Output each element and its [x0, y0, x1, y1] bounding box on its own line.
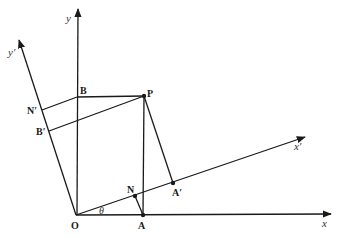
line-p-a-prime	[144, 96, 173, 183]
x-axis-label: x	[321, 217, 327, 229]
point-a-prime	[171, 181, 175, 185]
x-prime-axis-label: x′	[293, 140, 302, 152]
label-b-prime: B′	[36, 126, 46, 137]
x-axis	[76, 214, 331, 215]
line-p-a	[143, 96, 144, 215]
y-axis	[77, 9, 78, 215]
label-o: O	[71, 220, 79, 231]
label-n-prime: N′	[27, 105, 37, 116]
y-prime-axis	[19, 40, 76, 215]
label-a: A	[138, 220, 146, 231]
y-prime-axis-label: y′	[7, 46, 16, 58]
line-p-b-prime	[49, 96, 144, 131]
label-n: N	[127, 184, 135, 195]
label-b: B	[80, 85, 87, 96]
line-b-p	[77, 96, 144, 97]
line-b-n-prime	[42, 97, 77, 110]
angle-theta-label: θ	[99, 205, 104, 216]
point-a	[141, 213, 145, 217]
point-p	[142, 94, 146, 98]
label-p: P	[147, 88, 153, 99]
y-axis-label: y	[65, 12, 71, 24]
rotated-axes-diagram: x y x′ y′ O A B P N A′ B′ N′ θ	[0, 0, 338, 237]
x-prime-axis	[76, 137, 305, 215]
line-a-n	[135, 196, 143, 215]
label-a-prime: A′	[172, 187, 182, 198]
